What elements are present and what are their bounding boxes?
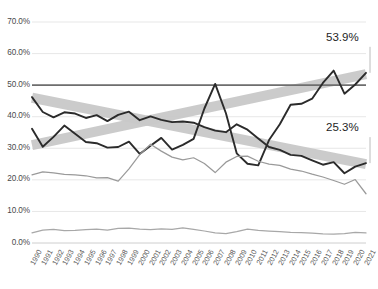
y-axis-tick-label: 20.0% xyxy=(0,174,30,183)
y-axis-tick-label: 30.0% xyxy=(0,143,30,152)
y-axis-tick-label: 70.0% xyxy=(0,17,30,26)
callout-bottom: 25.3% xyxy=(326,121,359,133)
series-line-series-baseline xyxy=(32,228,366,234)
y-axis-tick-label: 50.0% xyxy=(0,80,30,89)
y-axis-tick-label: 40.0% xyxy=(0,111,30,120)
y-axis-tick-label: 60.0% xyxy=(0,48,30,57)
y-axis-tick-label: 10.0% xyxy=(0,206,30,215)
y-axis-tick-label: 0.0% xyxy=(0,238,30,247)
callout-top: 53.9% xyxy=(326,31,359,43)
